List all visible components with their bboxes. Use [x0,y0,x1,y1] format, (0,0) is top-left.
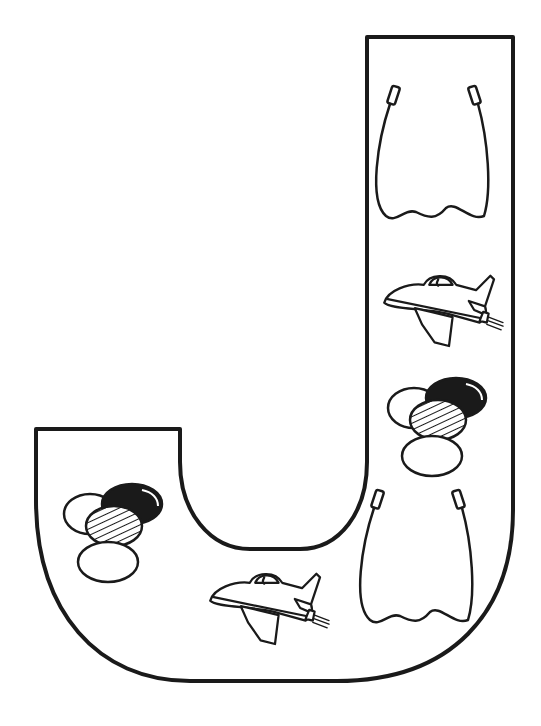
jelly-beans-icon [64,484,162,582]
jelly-beans-icon [388,378,486,476]
airplane-icon [384,276,503,346]
jump-rope-icon [360,489,472,622]
coloring-page [0,0,541,726]
jump-rope-icon [376,85,488,218]
airplane-icon [210,574,329,644]
